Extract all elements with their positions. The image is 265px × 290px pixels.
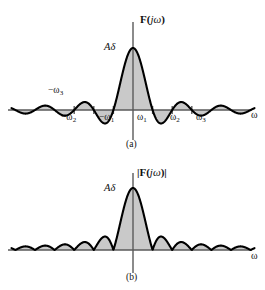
panel-b-plot bbox=[0, 155, 265, 290]
panel-a-ticklabel-neg-omega-2: −ω2 bbox=[61, 113, 76, 123]
panel-a-ticklabel-omega-1: ω1 bbox=[137, 113, 147, 123]
panel-b-y-axis-label-bar-close: | bbox=[164, 166, 166, 178]
tick-sub: 2 bbox=[176, 116, 180, 124]
panel-a-signed-spectrum: F(jω) Aδ −ω3 −ω2 −ω1 ω1 ω2 ω3 ω (a) bbox=[0, 0, 265, 155]
tick-sub: 1 bbox=[111, 116, 115, 124]
panel-a-ticklabel-omega-3: ω3 bbox=[196, 113, 206, 123]
panel-a-ticklabel-neg-omega-3: −ω3 bbox=[48, 86, 63, 96]
panel-a-amplitude-label: Aδ bbox=[104, 42, 115, 53]
panel-b-x-axis-label: ω bbox=[251, 251, 258, 261]
panel-a-caption: (a) bbox=[126, 140, 137, 150]
panel-a-amplitude-delta: δ bbox=[110, 41, 115, 52]
tick-omega: ω bbox=[104, 112, 110, 122]
tick-sub: 3 bbox=[202, 116, 206, 124]
tick-omega: ω bbox=[53, 85, 59, 95]
panel-b-y-axis-label-omega: ω bbox=[153, 166, 161, 178]
panel-a-plot bbox=[0, 0, 265, 155]
panel-b-amplitude-delta: δ bbox=[110, 182, 115, 193]
tick-sub: 2 bbox=[73, 116, 77, 124]
figure-fourier-transform-sinc: F(jω) Aδ −ω3 −ω2 −ω1 ω1 ω2 ω3 ω (a) |F(j… bbox=[0, 0, 265, 290]
panel-b-y-axis-label: |F(jω)| bbox=[137, 167, 167, 178]
panel-a-y-axis-label-F: F bbox=[140, 13, 147, 25]
tick-omega: ω bbox=[66, 112, 72, 122]
tick-sub: 3 bbox=[60, 89, 64, 97]
tick-sub: 1 bbox=[143, 116, 147, 124]
panel-a-y-axis-label-paren-close: ) bbox=[161, 13, 165, 25]
panel-a-y-axis-label: F(jω) bbox=[140, 14, 165, 25]
panel-a-ticklabel-neg-omega-1: −ω1 bbox=[99, 113, 114, 123]
panel-b-caption: (b) bbox=[126, 273, 137, 283]
panel-b-amplitude-label: Aδ bbox=[104, 183, 115, 194]
panel-b-magnitude-spectrum: |F(jω)| Aδ ω (b) bbox=[0, 155, 265, 290]
panel-a-ticklabel-omega-2: ω2 bbox=[170, 113, 180, 123]
panel-a-x-axis-label: ω bbox=[251, 110, 258, 120]
